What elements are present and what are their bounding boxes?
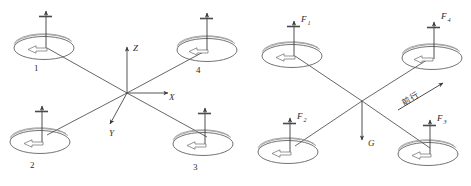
rotor-f3: F 3: [398, 113, 458, 166]
force-f2-subscript: 2: [304, 116, 307, 123]
arm-to-f2: [295, 101, 362, 146]
arm-to-f1: [295, 56, 362, 101]
left-panel-group: Z X Y 1 4: [10, 11, 237, 172]
rotor-f4: F 4: [402, 11, 462, 70]
rotor-f2-rotation-arrow: [272, 150, 291, 157]
force-f1-subscript: 1: [308, 19, 311, 26]
rotor-f3-rotation-arrow: [412, 152, 431, 159]
forward-direction-group: 前行: [398, 83, 443, 110]
axis-x-label: X: [168, 92, 175, 102]
rotor-f1-rotation-arrow: [276, 54, 295, 61]
quadrotor-figure: Z X Y 1 4: [0, 0, 471, 186]
axis-y-label: Y: [109, 128, 115, 138]
rotor-4-label: 4: [196, 65, 201, 75]
force-f3-subscript: 3: [443, 118, 447, 125]
arm-to-rotor-4: [127, 50, 207, 93]
rotor-2-label: 2: [30, 160, 35, 170]
forward-direction-label: 前行: [400, 90, 421, 108]
axis-z-label: Z: [133, 43, 139, 53]
arm-to-rotor-1: [47, 48, 127, 93]
quadrotor-diagram-svg: Z X Y 1 4: [0, 0, 471, 186]
force-f3-label: F: [436, 113, 443, 123]
rotor-3-rotation-arrow: [187, 142, 206, 149]
rotor-f2: F 2: [258, 111, 318, 164]
rotor-1-rotation-arrow: [28, 46, 47, 53]
force-f1-label: F: [300, 14, 307, 24]
gravity-label: G: [368, 138, 375, 148]
rotor-1: 1: [14, 11, 74, 73]
rotor-3: 3: [173, 108, 233, 172]
rotor-2-rotation-arrow: [24, 140, 43, 147]
force-f4-subscript: 4: [448, 16, 451, 23]
force-f4-label: F: [440, 11, 447, 21]
rotor-2: 2: [10, 106, 70, 170]
arm-to-f4: [362, 58, 430, 101]
rotor-1-label: 1: [34, 63, 39, 73]
rotor-4: 4: [177, 13, 237, 75]
gravity-vector-group: G: [362, 101, 375, 148]
left-coordinate-axes: Z X Y: [109, 43, 175, 138]
rotor-f1: F 1: [262, 14, 322, 68]
right-panel-group: G 前行 F 1: [258, 11, 462, 166]
force-f2-label: F: [296, 111, 303, 121]
rotor-3-label: 3: [193, 162, 198, 172]
